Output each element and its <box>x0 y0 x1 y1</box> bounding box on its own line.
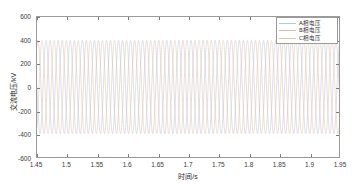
y-tick <box>336 135 339 136</box>
y-tick-label: 600 <box>20 12 31 21</box>
x-tick <box>311 154 312 157</box>
x-axis-title: 时间/s <box>36 171 340 181</box>
legend-item: C相电压 <box>279 35 335 42</box>
y-tick <box>37 88 40 89</box>
x-tick-label: 1.75 <box>212 160 225 169</box>
chart-legend: A相电压B相电压C相电压 <box>276 17 338 44</box>
legend-color-swatch <box>279 38 296 39</box>
legend-label: C相电压 <box>299 35 321 42</box>
x-tick <box>219 154 220 157</box>
x-tick <box>37 154 38 157</box>
y-tick-label: -200 <box>18 106 31 115</box>
y-tick <box>37 112 40 113</box>
legend-label: B相电压 <box>299 27 321 34</box>
y-tick-label: 200 <box>20 59 31 68</box>
y-tick <box>37 41 40 42</box>
x-tick-label: 1.9 <box>305 160 314 169</box>
x-tick <box>98 17 99 20</box>
y-tick-label: -400 <box>18 130 31 139</box>
legend-color-swatch <box>279 30 296 31</box>
figure-canvas: 交流电压/kV 6004002000-200-400-600 1.451.51.… <box>0 0 356 196</box>
x-tick <box>159 154 160 157</box>
x-tick-label: 1.6 <box>123 160 132 169</box>
y-tick <box>336 88 339 89</box>
x-tick <box>189 154 190 157</box>
x-tick-label: 1.45 <box>30 160 43 169</box>
x-tick <box>67 17 68 20</box>
x-tick <box>189 17 190 20</box>
x-tick-label: 1.85 <box>273 160 286 169</box>
x-tick <box>250 154 251 157</box>
legend-item: B相电压 <box>279 27 335 34</box>
x-tick-label: 1.95 <box>334 160 347 169</box>
legend-color-swatch <box>279 23 296 24</box>
y-tick-label: 400 <box>20 35 31 44</box>
y-tick <box>336 112 339 113</box>
x-tick <box>219 17 220 20</box>
x-tick-label: 1.8 <box>244 160 253 169</box>
x-tick-label: 1.7 <box>183 160 192 169</box>
legend-label: A相电压 <box>299 20 321 27</box>
x-tick <box>128 17 129 20</box>
y-tick-label: 0 <box>27 83 31 92</box>
x-tick-label: 1.65 <box>151 160 164 169</box>
y-tick <box>37 64 40 65</box>
y-tick <box>37 135 40 136</box>
y-tick <box>336 64 339 65</box>
waveform-series <box>37 40 339 133</box>
x-tick-label: 1.5 <box>62 160 71 169</box>
y-axis-tick-labels: 6004002000-200-400-600 <box>0 16 34 158</box>
y-tick <box>37 17 40 18</box>
x-tick <box>98 154 99 157</box>
x-tick <box>159 17 160 20</box>
x-tick <box>67 154 68 157</box>
x-tick <box>250 17 251 20</box>
x-tick-label: 1.55 <box>90 160 103 169</box>
x-tick <box>280 154 281 157</box>
legend-item: A相电压 <box>279 20 335 27</box>
x-tick <box>128 154 129 157</box>
